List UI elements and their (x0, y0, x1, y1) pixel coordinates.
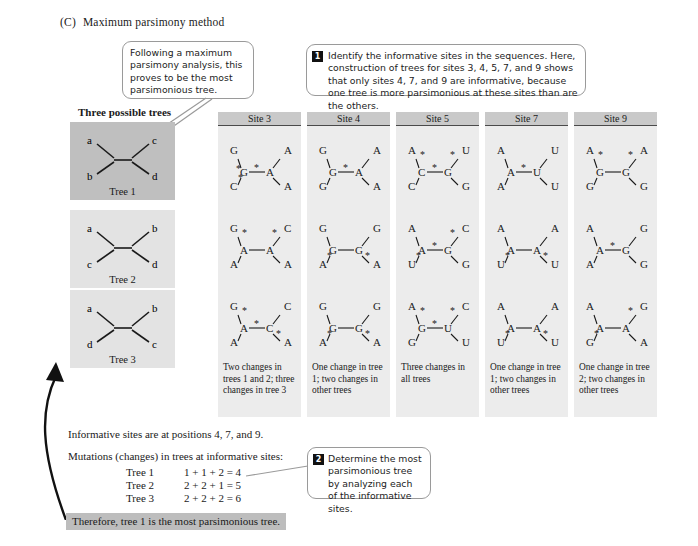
site-column-header: Site 5 (396, 112, 479, 126)
site-tree-graphic: AAGGAG* (574, 212, 657, 286)
change-asterisk: * (543, 250, 548, 261)
site-tree-graphic: AGGAAA** (574, 290, 657, 364)
change-asterisk: * (628, 149, 633, 160)
step-2-badge: 2 (313, 454, 324, 465)
change-asterisk: * (598, 149, 603, 160)
site-column-header: Site 7 (485, 112, 568, 126)
base-bottom-left: G (586, 336, 594, 348)
base-bottom-left: G (586, 180, 594, 192)
base-top-right: C (284, 222, 291, 234)
site-column-4: Site 4GGAAGA*GAGAGG**GAGAGG**One change … (307, 112, 390, 417)
base-internal-right: G (355, 244, 363, 256)
base-top-right: U (462, 144, 470, 156)
site-column-body: AGAGGG**AAGGAG*AGGAAA**One change in tre… (574, 126, 657, 417)
base-bottom-left: G (408, 336, 416, 348)
base-internal-left: A (596, 244, 604, 256)
change-asterisk: * (521, 162, 526, 173)
base-internal-right: A (355, 166, 363, 178)
tree-1-tip-top-right: c (152, 134, 157, 146)
change-asterisk: * (343, 162, 348, 173)
base-bottom-left: A (497, 180, 505, 192)
site-tree-3: GAGAGG** (307, 290, 390, 364)
tree-3-tip-top-left: a (87, 302, 92, 314)
site-tree-graphic: AUAUAA** (485, 290, 568, 364)
base-bottom-right: U (462, 336, 470, 348)
site-tree-graphic: AAUUAU* (485, 134, 568, 208)
base-internal-right: G (355, 322, 363, 334)
base-bottom-right: A (373, 258, 381, 270)
base-bottom-right: G (640, 180, 648, 192)
mutations-line: Mutations (changes) in trees at informat… (68, 450, 283, 462)
mutations-tree-name: Tree 1 (126, 466, 184, 479)
tree-option-2[interactable]: a c b d Tree 2 (70, 210, 175, 288)
base-top-left: A (497, 222, 505, 234)
mutations-tree-calc: 1 + 1 + 2 = 4 (184, 466, 241, 479)
base-bottom-left: A (586, 258, 594, 270)
site-column-header: Site 9 (574, 112, 657, 126)
site-tree-graphic: ACUGCG*** (396, 134, 479, 208)
change-asterisk: * (272, 227, 277, 238)
base-bottom-right: U (551, 258, 559, 270)
site-tree-graphic: GCAAGA*** (218, 134, 301, 208)
site-tree-3: AUAUAA** (485, 290, 568, 364)
callout-step1-text: Identify the informative sites in the se… (328, 50, 578, 111)
base-internal-left: A (240, 244, 248, 256)
change-asterisk: * (327, 250, 332, 261)
base-bottom-right: A (284, 258, 292, 270)
base-bottom-right: A (373, 336, 381, 348)
tree-option-1[interactable]: a b c d Tree 1 (70, 122, 175, 200)
base-internal-left: C (418, 166, 425, 178)
base-top-left: A (586, 222, 594, 234)
tree-1-label: Tree 1 (70, 186, 175, 197)
site-tree-graphic: GAGAGG** (307, 212, 390, 286)
site-tree-graphic: AUAUAA** (485, 212, 568, 286)
base-top-left: A (586, 300, 594, 312)
site-tree-1: GGAAGA* (307, 134, 390, 208)
tree-3-tip-bottom-right: c (152, 338, 157, 350)
base-internal-left: A (507, 166, 515, 178)
figure-maximum-parsimony: (C)Maximum parsimony method Following a … (0, 0, 698, 546)
base-internal-right: U (533, 166, 541, 178)
site-column-caption: One change in tree 2; two changes in oth… (579, 362, 653, 397)
site-column-caption: Three changes in all trees (401, 362, 475, 385)
site-tree-1: GCAAGA*** (218, 134, 301, 208)
base-bottom-left: A (230, 258, 238, 270)
change-asterisk: * (276, 328, 281, 339)
base-top-left: G (319, 222, 327, 234)
tree-2-tip-bottom-left: c (87, 258, 92, 270)
tree-option-3[interactable]: a d b c Tree 3 (70, 290, 175, 368)
base-bottom-left: C (408, 180, 415, 192)
base-bottom-right: A (373, 180, 381, 192)
site-tree-graphic: AGCUGU*** (396, 290, 479, 364)
base-internal-left: A (240, 322, 248, 334)
base-bottom-left: C (230, 180, 237, 192)
base-internal-left: G (418, 322, 426, 334)
base-top-right: C (284, 300, 291, 312)
base-internal-right: G (622, 244, 630, 256)
change-asterisk: * (236, 163, 241, 174)
mutations-tree-name: Tree 3 (126, 492, 184, 505)
callout-left: Following a maximum parsimony analysis, … (122, 41, 254, 99)
site-column-9: Site 9AGAGGG**AAGGAG*AGGAAA**One change … (574, 112, 657, 417)
site-column-7: Site 7AAUUAU*AUAUAA**AUAUAA**One change … (485, 112, 568, 417)
change-asterisk: * (594, 328, 599, 339)
base-top-left: G (319, 300, 327, 312)
callout-step2: 2 Determine the most parsimonious tree b… (307, 447, 431, 499)
site-tree-2: AUCGAG*** (396, 212, 479, 286)
base-internal-right: G (622, 166, 630, 178)
base-top-right: G (640, 300, 648, 312)
change-asterisk: * (432, 162, 437, 173)
base-top-right: G (373, 300, 381, 312)
base-bottom-left: U (408, 258, 416, 270)
base-bottom-left: A (230, 336, 238, 348)
site-column-5: Site 5ACUGCG***AUCGAG***AGCUGU***Three c… (396, 112, 479, 417)
tree-1-tip-top-left: a (87, 134, 92, 146)
change-asterisk: * (242, 227, 247, 238)
change-asterisk: * (432, 318, 437, 329)
site-tree-graphic: AUCGAG*** (396, 212, 479, 286)
base-top-left: G (230, 300, 238, 312)
base-bottom-left: G (319, 180, 327, 192)
change-asterisk: * (420, 149, 425, 160)
site-tree-3: GACAAC*** (218, 290, 301, 364)
change-asterisk: * (543, 328, 548, 339)
